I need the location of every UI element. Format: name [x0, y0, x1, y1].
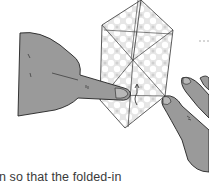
- paper-diamond: [100, 0, 173, 128]
- right-hand: [162, 76, 209, 172]
- instruction-caption: n so that the folded-in: [0, 170, 122, 184]
- folding-illustration: [0, 0, 209, 189]
